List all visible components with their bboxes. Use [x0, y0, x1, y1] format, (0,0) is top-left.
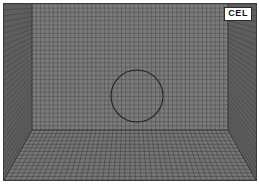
back-wall: [32, 4, 228, 130]
cel-simulation-figure: CEL: [0, 0, 259, 188]
simulation-viewport: CEL: [3, 3, 257, 181]
floor: [4, 130, 256, 180]
domain-box-perspective: [4, 4, 256, 180]
cel-label-badge: CEL: [224, 7, 252, 21]
scene-canvas: CEL: [4, 4, 256, 180]
mesh-scene-svg: [4, 4, 256, 180]
